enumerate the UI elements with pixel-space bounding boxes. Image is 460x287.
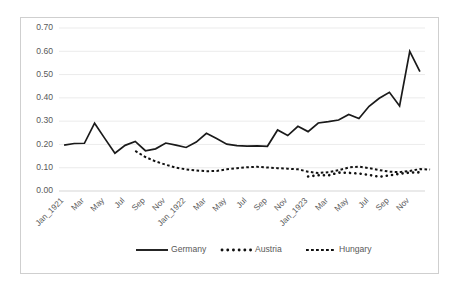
series-line-austria [308,172,420,176]
x-axis-tick-label: Nov [151,195,168,212]
x-axis-tick-label: Mar [191,196,208,213]
chart-legend: GermanyAustriaHungary [136,244,372,254]
data-series-group [64,51,430,177]
legend-label-austria[interactable]: Austria [255,244,282,254]
y-axis-tick-label: 0.10 [36,162,53,172]
x-axis-tick-label: May [211,195,229,213]
line-chart: 0.000.100.200.300.400.500.600.70 Jan_192… [21,18,439,274]
y-axis-tick-label: 0.50 [36,69,53,79]
x-axis-tick-label: Sep [252,196,269,213]
x-axis-tick-label: May [333,195,351,213]
gridlines [59,28,425,191]
x-axis-tick-label: May [89,195,107,213]
series-line-hungary [135,151,430,173]
x-axis-tick-label: Mar [313,196,330,213]
y-axis-tick-label: 0.00 [36,185,53,195]
y-axis-tick-label: 0.60 [36,46,53,56]
x-axis-tick-labels: Jan_1921MarMayJulSepNovJan_1922MarMayJul… [34,195,412,227]
y-axis-tick-label: 0.40 [36,92,53,102]
x-axis-tick-label: Jan_1921 [34,196,66,228]
y-axis-tick-labels: 0.000.100.200.300.400.500.600.70 [36,22,53,195]
y-axis-tick-label: 0.20 [36,139,53,149]
legend-label-hungary[interactable]: Hungary [339,244,372,254]
y-axis-tick-label: 0.70 [36,22,53,32]
x-axis-tick-label: Nov [273,195,290,212]
y-axis-tick-label: 0.30 [36,115,53,125]
x-axis-tick-label: Sep [374,196,391,213]
x-axis-tick-label: Jul [235,196,249,210]
legend-label-germany[interactable]: Germany [171,244,207,254]
x-axis-tick-label: Nov [395,195,412,212]
series-line-germany [64,51,420,153]
x-axis-tick-label: Mar [69,196,86,213]
x-axis-tick-label: Jul [113,196,127,210]
x-axis-tick-label: Jul [357,196,371,210]
x-axis-tick-label: Sep [130,196,147,213]
chart-frame: 0.000.100.200.300.400.500.600.70 Jan_192… [20,17,439,274]
